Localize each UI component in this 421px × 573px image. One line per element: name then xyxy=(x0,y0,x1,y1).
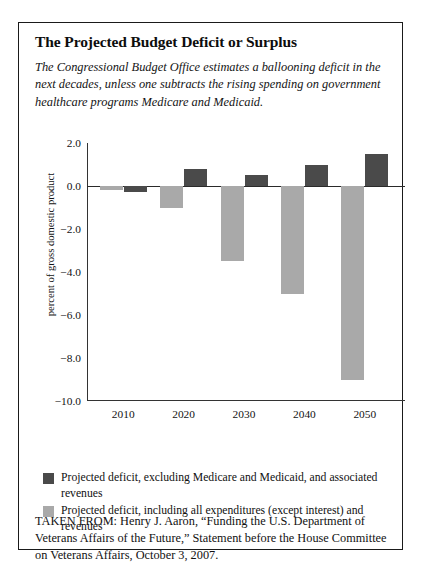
bar xyxy=(245,175,268,186)
bar xyxy=(305,165,328,187)
y-tick-label: −2.0 xyxy=(60,223,81,235)
bar-chart: percent of gross domestic product 2.00.0… xyxy=(19,135,404,453)
bar xyxy=(341,186,364,380)
x-axis-line xyxy=(87,400,405,401)
y-tick-label: 0.0 xyxy=(67,180,81,192)
x-tick-label: 2020 xyxy=(172,408,195,420)
y-axis-line xyxy=(87,143,88,401)
legend-item: Projected deficit, excluding Medicare an… xyxy=(43,470,395,502)
y-axis-title: percent of gross domestic product xyxy=(45,150,56,340)
source-note: TAKEN FROM: Henry J. Aaron, “Funding the… xyxy=(35,513,391,565)
bar xyxy=(100,186,123,190)
y-tick-label: −6.0 xyxy=(60,309,81,321)
bar xyxy=(221,186,244,261)
figure-subtitle: The Congressional Budget Office estimate… xyxy=(35,59,391,111)
x-tick-label: 2050 xyxy=(353,408,376,420)
x-tick-label: 2030 xyxy=(233,408,256,420)
figure-card: The Projected Budget Deficit or Surplus … xyxy=(18,22,403,550)
y-tick-label: −4.0 xyxy=(60,266,81,278)
figure-title: The Projected Budget Deficit or Surplus xyxy=(35,33,387,51)
bar xyxy=(281,186,304,294)
bar xyxy=(160,186,183,208)
x-tick-label: 2010 xyxy=(112,408,135,420)
y-tick-label: 2.0 xyxy=(67,137,81,149)
plot-area: 2.00.0−2.0−4.0−6.0−8.0−10.0 201020202030… xyxy=(87,143,389,401)
x-tick-label: 2040 xyxy=(293,408,316,420)
legend-swatch xyxy=(43,473,54,484)
legend-label: Projected deficit, excluding Medicare an… xyxy=(61,470,395,502)
y-tick-label: −8.0 xyxy=(60,352,81,364)
bar xyxy=(124,186,147,192)
bar xyxy=(365,154,388,186)
y-tick-label: −10.0 xyxy=(55,395,81,407)
bar xyxy=(184,169,207,186)
